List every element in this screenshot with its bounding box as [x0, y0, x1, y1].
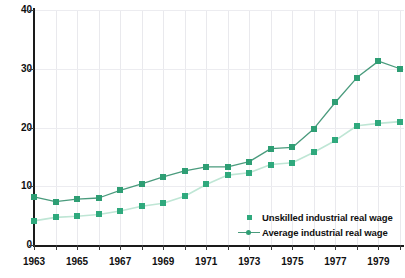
- x-tick-label-1979: 1979: [358, 256, 398, 267]
- data-point-0-1968: [139, 203, 145, 209]
- top-caption-clipped: [46, 0, 346, 4]
- data-point-0-1973: [246, 170, 252, 176]
- data-point-0-1964: [53, 214, 59, 220]
- legend-label-unskilled: Unskilled industrial real wage: [262, 212, 393, 223]
- data-point-0-1972: [225, 172, 231, 178]
- data-point-1-1977: [332, 99, 338, 105]
- data-point-1-1978: [354, 75, 360, 81]
- data-point-1-1972: [225, 164, 231, 170]
- data-point-1-1968: [139, 181, 145, 187]
- y-tick-mark-30: [29, 69, 34, 70]
- y-tick-label-20: 20: [4, 123, 32, 133]
- data-point-1-1964: [53, 199, 59, 205]
- x-tick-mark-1978: [357, 245, 358, 250]
- x-tick-label-1965: 1965: [57, 256, 97, 267]
- x-tick-mark-1969: [163, 245, 164, 250]
- legend-square-icon: [236, 215, 262, 220]
- data-point-1-1963: [31, 194, 37, 200]
- gridline-h-40: [34, 10, 404, 11]
- gridline-h-30: [34, 69, 404, 70]
- data-point-0-1965: [74, 213, 80, 219]
- x-tick-label-1971: 1971: [186, 256, 226, 267]
- data-point-1-1970: [182, 168, 188, 174]
- y-tick-mark-20: [29, 128, 34, 129]
- data-point-1-1974: [268, 146, 274, 152]
- legend-line-dot-icon: [236, 232, 262, 233]
- x-tick-mark-1976: [314, 245, 315, 250]
- data-point-0-1979: [375, 120, 381, 126]
- x-tick-mark-1966: [99, 245, 100, 250]
- y-tick-mark-40: [29, 10, 34, 11]
- x-tick-label-1969: 1969: [143, 256, 183, 267]
- data-point-1-1966: [96, 195, 102, 201]
- x-tick-mark-1968: [142, 245, 143, 250]
- x-tick-label-1973: 1973: [229, 256, 269, 267]
- data-point-0-1974: [268, 162, 274, 168]
- x-tick-mark-1973: [249, 245, 250, 250]
- data-point-1-1976: [311, 126, 317, 132]
- x-tick-mark-1967: [120, 245, 121, 250]
- x-tick-label-1967: 1967: [100, 256, 140, 267]
- data-point-0-1970: [182, 193, 188, 199]
- x-tick-mark-1980: [400, 245, 401, 250]
- legend: Unskilled industrial real wage Average i…: [236, 210, 401, 240]
- x-tick-mark-1972: [228, 245, 229, 250]
- data-point-0-1977: [332, 137, 338, 143]
- y-tick-label-10: 10: [4, 181, 32, 191]
- x-tick-mark-1979: [378, 245, 379, 250]
- legend-item-unskilled[interactable]: Unskilled industrial real wage: [236, 210, 401, 225]
- legend-label-average: Average industrial real wage: [262, 227, 388, 238]
- x-tick-mark-1965: [77, 245, 78, 250]
- data-point-0-1978: [354, 123, 360, 129]
- data-point-1-1973: [246, 159, 252, 165]
- gridline-h-20: [34, 128, 404, 129]
- y-tick-label-0: 0: [4, 240, 32, 250]
- data-point-0-1963: [31, 218, 37, 224]
- data-point-1-1967: [117, 187, 123, 193]
- data-point-0-1967: [117, 208, 123, 214]
- data-point-1-1980: [397, 66, 403, 72]
- x-tick-label-1975: 1975: [272, 256, 312, 267]
- data-point-1-1975: [289, 144, 295, 150]
- data-point-0-1966: [96, 211, 102, 217]
- x-tick-label-1977: 1977: [315, 256, 355, 267]
- data-point-0-1971: [203, 181, 209, 187]
- x-tick-mark-1977: [335, 245, 336, 250]
- data-point-1-1979: [375, 58, 381, 64]
- data-point-1-1969: [160, 174, 166, 180]
- y-tick-mark-10: [29, 186, 34, 187]
- data-point-0-1976: [311, 149, 317, 155]
- data-point-1-1965: [74, 196, 80, 202]
- data-point-0-1980: [397, 119, 403, 125]
- y-tick-label-30: 30: [4, 64, 32, 74]
- x-tick-mark-1963: [34, 245, 35, 250]
- data-point-0-1975: [289, 160, 295, 166]
- gridline-h-10: [34, 186, 404, 187]
- x-tick-mark-1970: [185, 245, 186, 250]
- data-point-1-1971: [203, 164, 209, 170]
- y-tick-label-40: 40: [4, 5, 32, 15]
- legend-item-average[interactable]: Average industrial real wage: [236, 225, 401, 240]
- x-tick-mark-1964: [56, 245, 57, 250]
- x-tick-mark-1975: [292, 245, 293, 250]
- x-tick-label-1963: 1963: [14, 256, 54, 267]
- x-tick-mark-1971: [206, 245, 207, 250]
- data-point-0-1969: [160, 200, 166, 206]
- x-axis-line: [33, 245, 404, 247]
- chart-container: 403020100 196319651967196919711973197519…: [0, 0, 405, 278]
- x-tick-mark-1974: [271, 245, 272, 250]
